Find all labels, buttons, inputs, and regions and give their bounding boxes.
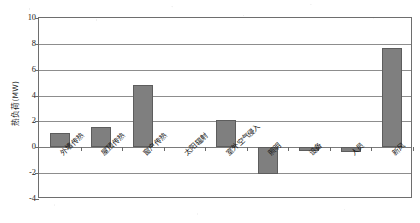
gridline — [39, 70, 411, 71]
y-tick-label: 8 — [14, 38, 36, 47]
bar — [133, 85, 153, 147]
x-tick-mark — [371, 147, 372, 151]
x-tick-mark — [205, 147, 206, 151]
y-tick-mark — [35, 121, 39, 122]
x-tick-mark — [247, 147, 248, 151]
heat-load-bar-chart: 热负荷(MW) 1086420-2-4 外墙传热屋顶传热窗户传热太阳辐射室外空气… — [0, 0, 420, 223]
y-tick-label: 0 — [14, 142, 36, 151]
y-tick-label: 10 — [14, 13, 36, 22]
y-tick-label: 6 — [14, 64, 36, 73]
x-tick-mark — [413, 147, 414, 151]
y-tick-label: 4 — [14, 90, 36, 99]
y-tick-mark — [35, 44, 39, 45]
y-tick-label: -4 — [14, 194, 36, 203]
y-tick-mark — [35, 147, 39, 148]
x-tick-mark — [81, 147, 82, 151]
x-tick-mark — [288, 147, 289, 151]
y-tick-label: -2 — [14, 168, 36, 177]
plot-area — [38, 17, 412, 198]
gridline — [39, 96, 411, 97]
y-tick-label: 2 — [14, 116, 36, 125]
x-tick-mark — [122, 147, 123, 151]
y-tick-mark — [35, 199, 39, 200]
y-axis-tick-labels: 1086420-2-4 — [10, 0, 36, 223]
gridline — [39, 173, 411, 174]
y-tick-mark — [35, 70, 39, 71]
gridline — [39, 44, 411, 45]
bar — [382, 48, 402, 148]
y-tick-mark — [35, 173, 39, 174]
x-tick-mark — [330, 147, 331, 151]
x-tick-mark — [164, 147, 165, 151]
y-tick-mark — [35, 18, 39, 19]
y-tick-mark — [35, 96, 39, 97]
